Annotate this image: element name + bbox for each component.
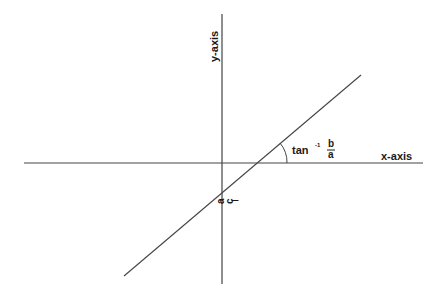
angle-label: tan -1 b a xyxy=(292,138,335,160)
svg-text:tan: tan xyxy=(292,144,309,156)
svg-text:a: a xyxy=(328,149,334,160)
angle-arc xyxy=(280,143,287,163)
diagram-canvas: y-axis x-axis tan -1 b a c a xyxy=(0,0,443,300)
svg-text:a: a xyxy=(215,198,226,204)
linear-function-line xyxy=(124,75,361,276)
svg-text:-1: -1 xyxy=(315,142,321,148)
intercept-label: c a xyxy=(215,198,239,204)
svg-text:b: b xyxy=(328,138,334,149)
y-axis-label: y-axis xyxy=(208,31,220,62)
x-axis-label: x-axis xyxy=(381,150,412,162)
